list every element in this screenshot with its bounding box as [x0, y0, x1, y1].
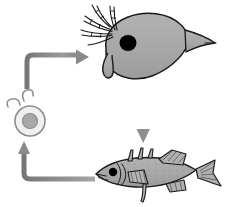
life-cycle-diagram: Parasite life cycle	[0, 0, 228, 207]
larva-inner-body	[23, 114, 38, 129]
diagram-canvas	[0, 0, 228, 207]
copepod-eye	[120, 35, 137, 51]
fish-eye	[109, 168, 117, 176]
